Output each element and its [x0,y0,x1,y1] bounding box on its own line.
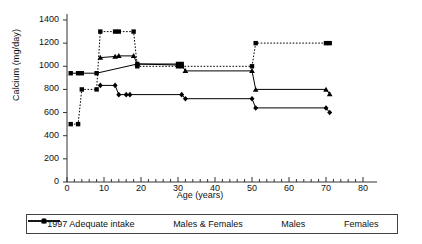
plot-area: Calcium (mg/day) Age (years) 14001200100… [0,0,422,200]
chart-figure: Calcium (mg/day) Age (years) 14001200100… [0,0,422,244]
series-line [71,32,330,125]
data-point-square [250,64,254,68]
data-point-square [80,87,84,91]
legend-label: Females [342,219,379,229]
series-1 [69,62,184,76]
data-point-diamond [127,92,132,98]
data-point-square [69,71,73,75]
legend-label: Males [279,219,305,229]
data-point-diamond [113,83,118,89]
legend-symbol-diamond-icon [27,215,61,227]
legend-item[interactable]: Females [342,219,379,229]
data-point-square [98,29,102,33]
series-0 [69,29,332,126]
data-point-square [328,41,332,45]
data-point-diamond [253,105,258,111]
data-point-diamond [42,218,47,224]
data-point-square [94,87,98,91]
series-3 [98,83,332,116]
legend-item[interactable]: Males & Females [171,219,243,229]
series-line [71,64,182,73]
chart-legend: 1997 Adequate intakeMales & FemalesMales… [26,214,398,234]
data-point-square [80,71,84,75]
data-point-square [131,29,135,33]
data-point-diamond [116,92,121,98]
series-line [100,56,329,94]
legend-label: Males & Females [171,219,243,229]
data-point-square [94,71,98,75]
chart-canvas [0,0,422,200]
series-2 [98,53,333,96]
data-point-square [69,122,73,126]
data-point-square [76,122,80,126]
data-point-square [254,41,258,45]
legend-item[interactable]: Males [279,219,305,229]
legend-marker [42,218,47,224]
data-point-diamond [250,96,255,102]
data-point-square [117,29,121,33]
